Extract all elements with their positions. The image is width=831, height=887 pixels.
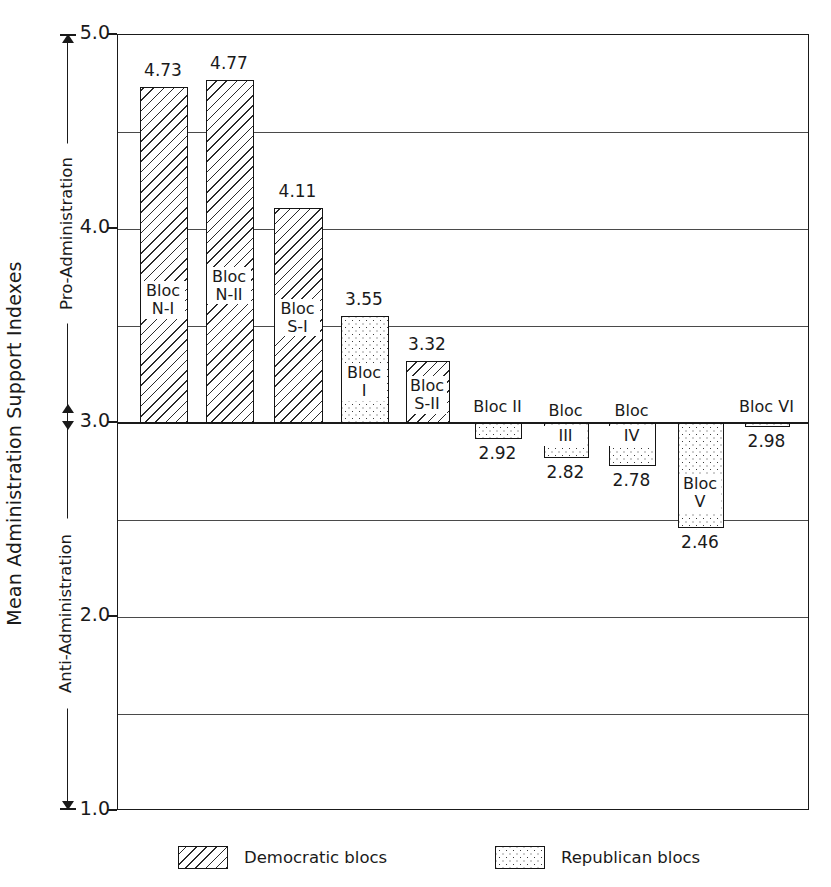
- y-axis-title-text: Mean Administration Support Indexes: [3, 261, 25, 625]
- bar-value-bloc-v: 2.46: [665, 532, 735, 552]
- gridline-1.5: [118, 714, 808, 715]
- bar-bloc-vi[interactable]: [745, 423, 790, 427]
- legend-item-dots[interactable]: Republican blocs: [495, 846, 700, 869]
- bar-value-bloc-iv: 2.78: [596, 470, 667, 490]
- bar-value-bloc-n-i: 4.73: [127, 60, 199, 80]
- bar-value-bloc-s-i: 4.11: [261, 181, 334, 201]
- bar-bloc-ii[interactable]: [475, 423, 522, 439]
- y-tick-mark-3.0: [108, 421, 117, 422]
- bar-label-bloc-iv-bottom: IV: [609, 426, 654, 446]
- y-tick-label-5.0: 5.0: [62, 21, 110, 43]
- y-tick-label-3.0: 3.0: [62, 409, 110, 431]
- y-tick-mark-2.0: [108, 615, 117, 616]
- bar-label-bloc-iv-top: Bloc: [609, 401, 654, 421]
- bar-bloc-n-ii[interactable]: [206, 80, 254, 423]
- bar-chart-figure: Mean Administration Support Indexes Pro-…: [0, 0, 831, 887]
- bar-value-bloc-vi: 2.98: [732, 431, 801, 451]
- bar-label-bloc-n-i: Bloc N-I: [141, 281, 185, 319]
- bar-bloc-n-i[interactable]: [140, 87, 188, 423]
- y-tick-mark-5.0: [108, 33, 117, 34]
- y-tick-label-4.0: 4.0: [62, 215, 110, 237]
- y-tick-mark-1.0: [108, 809, 117, 810]
- bar-value-bloc-s-ii: 3.32: [393, 334, 461, 354]
- bar-label-bloc-s-ii: Bloc S-II: [407, 376, 447, 414]
- y-tick-label-2.0: 2.0: [62, 603, 110, 625]
- bar-label-bloc-s-i: Bloc S-I: [275, 299, 320, 337]
- plot-area: [117, 34, 809, 810]
- bar-label-bloc-i: Bloc I: [342, 363, 386, 401]
- bar-label-bloc-ii: Bloc II: [460, 397, 535, 417]
- bar-label-bloc-iii-top: Bloc: [544, 401, 587, 421]
- legend-swatch-hatch: [178, 846, 228, 869]
- legend-label-hatch: Democratic blocs: [244, 848, 387, 867]
- y-axis-title: Mean Administration Support Indexes: [0, 0, 40, 887]
- bar-label-bloc-vi: Bloc VI: [730, 397, 803, 417]
- gridline-2: [118, 617, 808, 618]
- bar-value-bloc-n-ii: 4.77: [193, 53, 265, 73]
- bar-value-bloc-ii: 2.92: [462, 443, 533, 463]
- y-tick-mark-4.0: [108, 227, 117, 228]
- legend-swatch-dots: [495, 846, 545, 869]
- bar-value-bloc-iii: 2.82: [531, 462, 600, 482]
- bar-label-bloc-n-ii: Bloc N-II: [207, 267, 251, 305]
- bar-label-bloc-v: Bloc V: [679, 474, 721, 512]
- legend-item-hatch[interactable]: Democratic blocs: [178, 846, 387, 869]
- legend-label-dots: Republican blocs: [561, 848, 700, 867]
- y-tick-label-1.0: 1.0: [62, 797, 110, 819]
- legend: Democratic blocsRepublican blocs: [0, 840, 831, 880]
- bar-value-bloc-i: 3.55: [328, 289, 400, 309]
- bar-label-bloc-iii-bottom: III: [544, 426, 587, 446]
